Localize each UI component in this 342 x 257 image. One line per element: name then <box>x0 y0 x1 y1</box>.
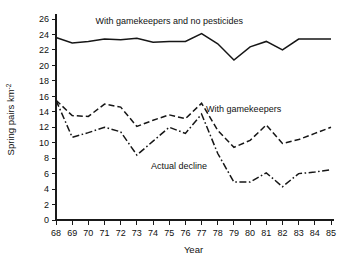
y-tick-label: 24 <box>39 30 49 40</box>
x-tick-label: 73 <box>132 228 142 238</box>
x-axis-ticks: 686970717273747576777879808182838485 <box>51 220 336 238</box>
y-tick-label: 10 <box>39 138 49 148</box>
x-tick-label: 78 <box>213 228 223 238</box>
x-tick-label: 69 <box>67 228 77 238</box>
y-tick-label: 14 <box>39 107 49 117</box>
x-tick-label: 85 <box>326 228 336 238</box>
x-tick-label: 83 <box>294 228 304 238</box>
y-tick-label: 6 <box>44 169 49 179</box>
x-tick-label: 68 <box>51 228 61 238</box>
y-tick-label: 8 <box>44 153 49 163</box>
y-tick-label: 0 <box>44 215 49 225</box>
x-tick-label: 76 <box>180 228 190 238</box>
x-tick-label: 74 <box>148 228 158 238</box>
series-line-2 <box>56 100 331 187</box>
chart-figure: 02468101214161820222426 6869707172737475… <box>0 0 342 257</box>
x-tick-label: 77 <box>197 228 207 238</box>
y-tick-label: 2 <box>44 200 49 210</box>
y-tick-label: 12 <box>39 122 49 132</box>
x-tick-label: 72 <box>116 228 126 238</box>
x-tick-label: 75 <box>164 228 174 238</box>
line-chart: 02468101214161820222426 6869707172737475… <box>0 0 342 257</box>
x-tick-label: 82 <box>277 228 287 238</box>
x-tick-label: 71 <box>100 228 110 238</box>
series-annotation-1: With gamekeepers <box>206 104 282 114</box>
x-tick-label: 81 <box>261 228 271 238</box>
y-axis-ticks: 02468101214161820222426 <box>39 14 56 225</box>
x-tick-label: 70 <box>83 228 93 238</box>
y-tick-label: 4 <box>44 184 49 194</box>
y-tick-label: 26 <box>39 14 49 24</box>
x-tick-label: 84 <box>310 228 320 238</box>
y-axis-title: Spring pairs km-2 <box>5 83 17 155</box>
y-tick-label: 18 <box>39 76 49 86</box>
y-tick-label: 20 <box>39 61 49 71</box>
y-tick-label: 22 <box>39 45 49 55</box>
x-axis-title: Year <box>184 244 203 255</box>
series-line-0 <box>56 34 331 60</box>
series-annotation-0: With gamekeepers and no pesticides <box>95 16 243 26</box>
series-annotation-2: Actual decline <box>151 161 207 171</box>
x-tick-label: 80 <box>245 228 255 238</box>
x-tick-label: 79 <box>229 228 239 238</box>
y-tick-label: 16 <box>39 92 49 102</box>
